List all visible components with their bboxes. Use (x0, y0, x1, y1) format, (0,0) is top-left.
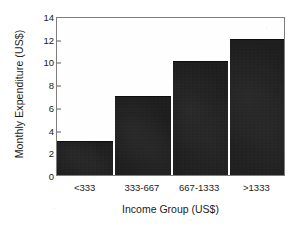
y-tick-label: 2 (34, 148, 54, 159)
x-tick-label: 667-1333 (179, 182, 219, 193)
y-tick-label: 10 (34, 57, 54, 68)
y-tick-mark (57, 108, 61, 109)
plot-area (56, 17, 285, 176)
y-tick-mark (57, 63, 61, 64)
y-axis-tick-labels: 02468101214 (34, 17, 54, 176)
y-tick-label: 14 (34, 12, 54, 23)
y-tick-label: 6 (34, 102, 54, 113)
y-tick-mark (57, 86, 61, 87)
y-tick-mark (57, 40, 61, 41)
bar (230, 39, 285, 175)
bar (57, 141, 113, 175)
y-axis-title: Monthly Expenditure (US$) (13, 9, 25, 179)
bar-chart-figure: Monthly Expenditure (US$) 02468101214 <3… (0, 0, 303, 229)
plot-inner (57, 18, 284, 175)
x-tick-label: <333 (74, 182, 95, 193)
y-tick-label: 12 (34, 34, 54, 45)
y-tick-label: 0 (34, 171, 54, 182)
bar (173, 61, 228, 175)
x-tick-label: 333-667 (124, 182, 159, 193)
x-tick-label: >1333 (243, 182, 270, 193)
bar (115, 96, 170, 176)
y-tick-label: 4 (34, 125, 54, 136)
x-axis-tick-labels: <333333-667667-1333>1333 (56, 182, 285, 196)
x-axis-title: Income Group (US$) (56, 203, 285, 215)
y-tick-label: 8 (34, 80, 54, 91)
y-tick-mark (57, 131, 61, 132)
